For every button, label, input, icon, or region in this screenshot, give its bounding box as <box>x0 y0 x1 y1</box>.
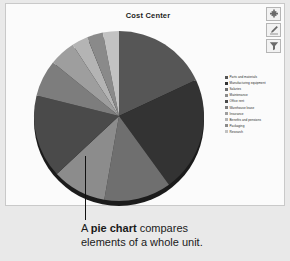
callout-leader-line <box>85 156 86 220</box>
caption-emphasis: pie chart <box>91 222 137 234</box>
caption-suffix: compares <box>137 222 188 234</box>
legend-swatch <box>225 112 228 115</box>
caption-line-1: A pie chart compares <box>81 222 188 234</box>
legend-label: Parts and materials <box>230 74 258 80</box>
legend-label: Manufacturing equipment <box>230 80 266 86</box>
caption-prefix: A <box>81 222 91 234</box>
legend-label: Insurance <box>230 111 244 117</box>
legend-swatch <box>225 76 228 79</box>
legend-swatch <box>225 130 228 133</box>
legend-label: Packaging <box>230 123 245 129</box>
pencil-icon <box>269 25 279 35</box>
legend-label: Salaries <box>230 86 242 92</box>
legend-swatch <box>225 100 228 103</box>
edit-button[interactable] <box>266 23 281 37</box>
chart-panel: Cost Center <box>5 3 285 206</box>
legend-swatch <box>225 82 228 85</box>
pie-chart-svg: Parts and materials: 18%Manufacturing eq… <box>28 25 210 207</box>
pie-slices: Parts and materials: 18%Manufacturing eq… <box>34 31 204 201</box>
legend-label: Research <box>230 129 244 135</box>
legend-label: Warehouse lease <box>230 105 255 111</box>
legend-swatch <box>225 94 228 97</box>
chart-legend: Parts and materialsManufacturing equipme… <box>225 74 283 135</box>
caption-line-2: elements of a whole unit. <box>81 236 203 248</box>
legend-swatch <box>225 88 228 91</box>
chart-toolbar <box>266 7 281 53</box>
legend-swatch <box>225 106 228 109</box>
pie-chart[interactable]: Parts and materials: 18%Manufacturing eq… <box>28 25 210 207</box>
legend-label: Office rent <box>230 98 245 104</box>
add-button[interactable] <box>266 7 281 21</box>
filter-icon <box>269 41 279 51</box>
filter-button[interactable] <box>266 39 281 53</box>
legend-item[interactable]: Research <box>225 129 283 135</box>
legend-label: Benefits and pensions <box>230 117 262 123</box>
plus-icon <box>269 9 279 19</box>
legend-label: Maintenance <box>230 92 248 98</box>
screenshot-root: Cost Center <box>0 0 290 261</box>
figure-caption: A pie chart compares elements of a whole… <box>81 222 281 249</box>
legend-swatch <box>225 118 228 121</box>
chart-title: Cost Center <box>6 11 284 20</box>
legend-swatch <box>225 124 228 127</box>
